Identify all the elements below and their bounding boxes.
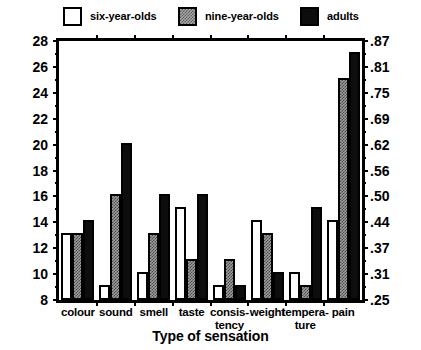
- y-axis-left-label-24: 24: [2, 86, 48, 100]
- legend-label-six-year-olds: six-year-olds: [90, 10, 157, 22]
- legend-label-adults: adults: [327, 10, 359, 22]
- plot-area: [59, 41, 362, 300]
- y-axis-left-label-20: 20: [2, 138, 48, 152]
- y-axis-right-label-62: .62: [370, 138, 420, 152]
- legend-item-six-year-olds: six-year-olds: [63, 5, 157, 27]
- bar-adults-6: [311, 207, 322, 300]
- legend-item-adults: adults: [300, 5, 359, 27]
- y-axis-left-label-10: 10: [2, 267, 48, 281]
- legend-item-nine-year-olds: nine-year-olds: [178, 5, 279, 27]
- y-tick-right-minor-7: [362, 105, 366, 107]
- bar-six-5: [251, 220, 262, 300]
- bar-nine-2: [148, 233, 159, 300]
- bar-nine-5: [262, 233, 273, 300]
- y-tick-right-87: [362, 40, 368, 42]
- x-axis-title: Type of sensation: [0, 328, 421, 344]
- bar-adults-2: [159, 194, 170, 300]
- bar-six-1: [99, 285, 110, 300]
- y-axis-right-label-87: .87: [370, 34, 420, 48]
- legend-label-nine-year-olds: nine-year-olds: [205, 10, 279, 22]
- y-axis-right-label-56: .56: [370, 164, 420, 178]
- bar-chart: six-year-olds nine-year-olds adults 8101…: [0, 0, 421, 350]
- y-axis-left-label-16: 16: [2, 189, 48, 203]
- y-tick-right-minor-5: [362, 157, 366, 159]
- bar-six-0: [61, 233, 72, 300]
- y-tick-right-56: [362, 170, 368, 172]
- bar-adults-7: [349, 52, 360, 300]
- y-axis-right-label-37: .37: [370, 241, 420, 255]
- bar-six-4: [213, 285, 224, 300]
- bar-nine-7: [338, 78, 349, 300]
- y-axis-right-label-75: .75: [370, 86, 420, 100]
- y-tick-right-62: [362, 144, 368, 146]
- bar-adults-1: [121, 143, 132, 300]
- bar-six-2: [137, 272, 148, 300]
- chart-legend: six-year-olds nine-year-olds adults: [0, 2, 421, 32]
- x-axis-label-line: pain: [316, 306, 370, 319]
- y-axis-left-label-12: 12: [2, 241, 48, 255]
- y-tick-right-minor-0: [362, 286, 366, 288]
- y-tick-right-25: [362, 299, 368, 301]
- y-tick-right-minor-6: [362, 131, 366, 133]
- y-tick-right-minor-2: [362, 234, 366, 236]
- plot-frame: [56, 38, 365, 303]
- y-axis-right-label-50: .50: [370, 189, 420, 203]
- y-axis-left-label-8: 8: [2, 293, 48, 307]
- bar-nine-1: [110, 194, 121, 300]
- legend-swatch-nine-year-olds: [178, 7, 197, 26]
- y-axis-left-label-14: 14: [2, 215, 48, 229]
- bar-six-6: [289, 272, 300, 300]
- y-axis-left-label-28: 28: [2, 34, 48, 48]
- y-axis-right-label-44: .44: [370, 215, 420, 229]
- y-tick-right-minor-3: [362, 208, 366, 210]
- y-axis-left-label-26: 26: [2, 60, 48, 74]
- y-tick-right-31: [362, 273, 368, 275]
- x-axis-label-7: pain: [316, 306, 370, 319]
- bar-six-3: [175, 207, 186, 300]
- y-axis-right-label-81: .81: [370, 60, 420, 74]
- y-axis-left-label-18: 18: [2, 164, 48, 178]
- y-axis-right-label-31: .31: [370, 267, 420, 281]
- y-tick-right-75: [362, 92, 368, 94]
- bar-nine-6: [300, 285, 311, 300]
- y-tick-right-81: [362, 66, 368, 68]
- y-tick-right-minor-4: [362, 182, 366, 184]
- y-tick-right-37: [362, 247, 368, 249]
- y-tick-right-minor-8: [362, 79, 366, 81]
- y-tick-right-minor-9: [362, 53, 366, 55]
- bar-adults-5: [273, 272, 284, 300]
- bar-six-7: [327, 220, 338, 300]
- y-tick-right-44: [362, 221, 368, 223]
- y-axis-right-label-69: .69: [370, 112, 420, 126]
- bar-adults-0: [83, 220, 94, 300]
- y-tick-right-minor-1: [362, 260, 366, 262]
- y-axis-left-label-22: 22: [2, 112, 48, 126]
- legend-swatch-adults: [300, 7, 319, 26]
- bar-adults-3: [197, 194, 208, 300]
- y-tick-right-69: [362, 118, 368, 120]
- y-tick-right-50: [362, 195, 368, 197]
- bar-nine-0: [72, 233, 83, 300]
- y-axis-right-label-25: .25: [370, 293, 420, 307]
- bar-adults-4: [235, 285, 246, 300]
- bar-nine-4: [224, 259, 235, 300]
- bar-nine-3: [186, 259, 197, 300]
- legend-swatch-six-year-olds: [63, 7, 82, 26]
